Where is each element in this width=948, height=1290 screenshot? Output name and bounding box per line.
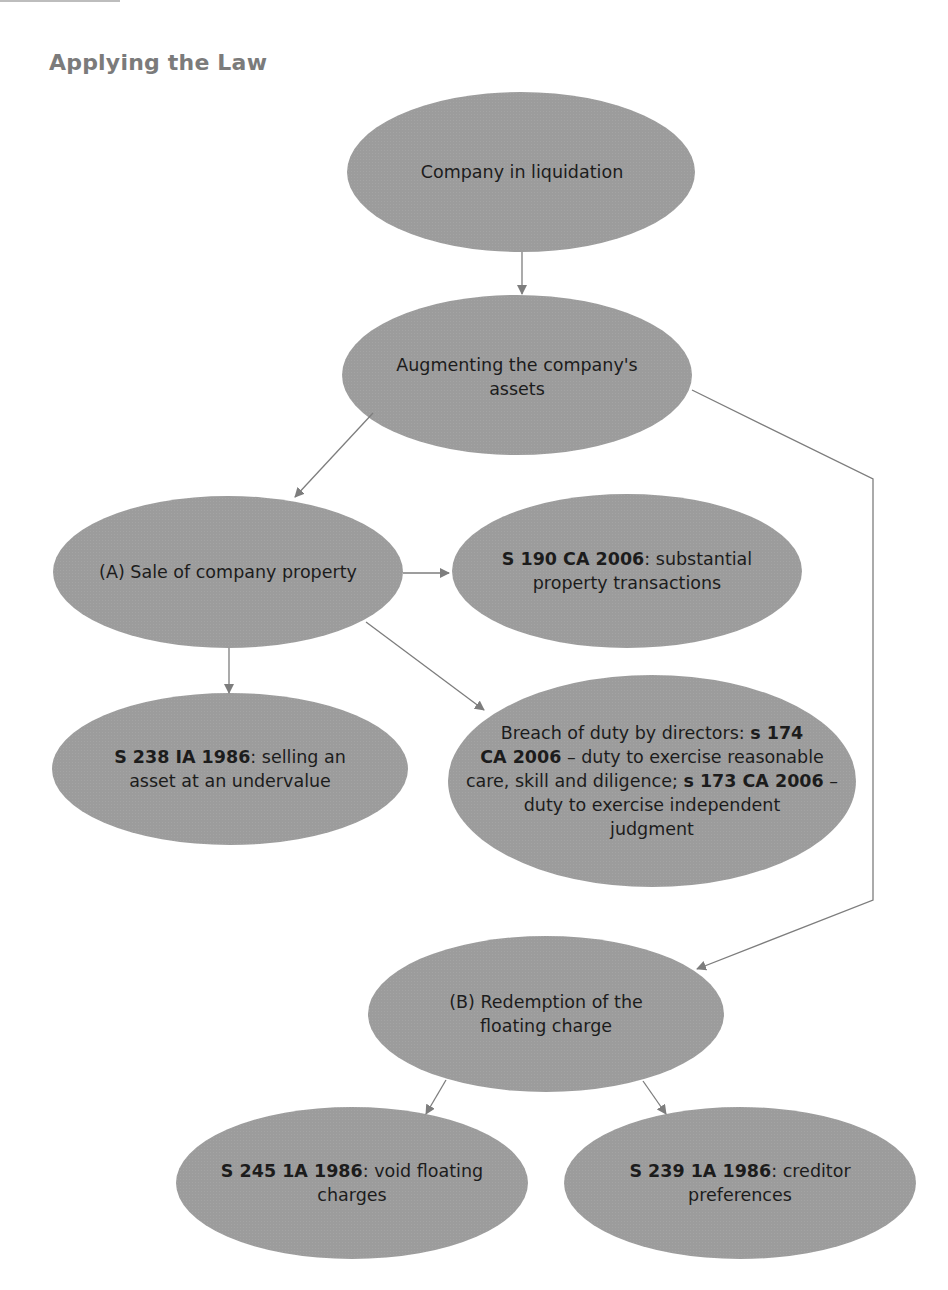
node-line: floating charge <box>449 1014 643 1038</box>
arrow-sale-to-breach <box>366 622 484 710</box>
node-breach-of-duty: Breach of duty by directors: s 174 CA 20… <box>462 716 842 846</box>
node-line: S 245 1A 1986: void floating <box>221 1159 483 1183</box>
node-line: care, skill and diligence; s 173 CA 2006… <box>466 769 838 793</box>
node-line: charges <box>221 1183 483 1207</box>
node-s239-ia-1986: S 239 1A 1986: creditor preferences <box>575 1143 905 1223</box>
arrow-augmenting-to-sale <box>295 413 373 497</box>
node-s190-ca-2006: S 190 CA 2006: substantial property tran… <box>462 531 792 611</box>
node-redemption-floating-charge: (B) Redemption of the floating charge <box>381 974 711 1054</box>
node-s245-ia-1986: S 245 1A 1986: void floating charges <box>187 1143 517 1223</box>
node-line: Breach of duty by directors: s 174 <box>466 721 838 745</box>
node-line: assets <box>396 377 637 401</box>
node-line: (B) Redemption of the <box>449 990 643 1014</box>
statute-ref: CA 2006 <box>480 747 561 767</box>
node-sale-of-property: (A) Sale of company property <box>63 532 393 612</box>
node-line: Company in liquidation <box>421 160 623 184</box>
statute-ref: S 239 1A 1986 <box>629 1161 771 1181</box>
node-line: S 190 CA 2006: substantial <box>502 547 752 571</box>
arrow-redemption-to-s239 <box>643 1081 666 1114</box>
node-line: Augmenting the company's <box>396 353 637 377</box>
node-line: (A) Sale of company property <box>99 560 357 584</box>
node-line: preferences <box>629 1183 850 1207</box>
statute-ref: S 245 1A 1986 <box>221 1161 363 1181</box>
node-line: judgment <box>466 817 838 841</box>
node-line: S 239 1A 1986: creditor <box>629 1159 850 1183</box>
node-company-in-liquidation: Company in liquidation <box>357 132 687 212</box>
node-augmenting-assets: Augmenting the company's assets <box>352 335 682 419</box>
node-line: property transactions <box>502 571 752 595</box>
statute-ref: s 174 <box>750 723 803 743</box>
statute-ref: S 190 CA 2006 <box>502 549 645 569</box>
arrow-redemption-to-s245 <box>426 1080 446 1114</box>
node-line: CA 2006 – duty to exercise reasonable <box>466 745 838 769</box>
node-line: S 238 IA 1986: selling an <box>114 745 346 769</box>
node-s238-ia-1986: S 238 IA 1986: selling an asset at an un… <box>65 729 395 809</box>
statute-ref: S 238 IA 1986 <box>114 747 250 767</box>
node-line: asset at an undervalue <box>114 769 346 793</box>
arrow-augmenting-to-redemption <box>692 390 873 969</box>
statute-ref: s 173 CA 2006 <box>683 771 823 791</box>
node-line: duty to exercise independent <box>466 793 838 817</box>
